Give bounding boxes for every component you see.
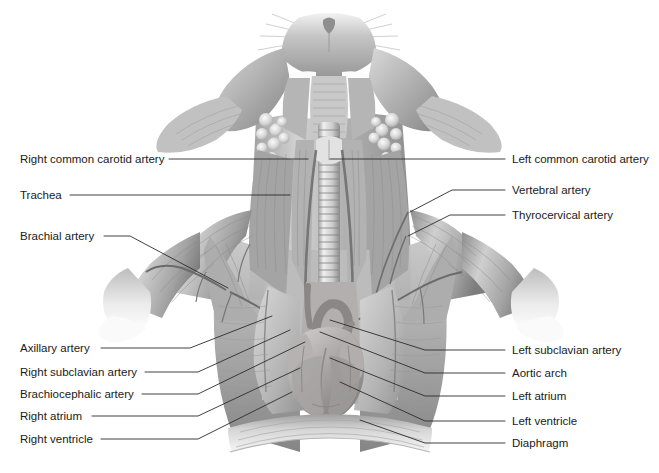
label-left-atrium: Left atrium [512, 390, 566, 402]
label-right-subclavian-artery: Right subclavian artery [20, 366, 137, 378]
label-right-atrium: Right atrium [20, 410, 82, 422]
anatomy-figure-page: Right common carotid arteryTracheaBrachi… [0, 0, 659, 473]
brachiocephalic-vessel [307, 286, 310, 326]
label-left-subclavian-artery: Left subclavian artery [512, 344, 621, 356]
label-left-ventricle: Left ventricle [512, 415, 577, 427]
leader-line-vertebral-artery [410, 190, 505, 212]
label-trachea: Trachea [20, 189, 62, 201]
label-left-common-carotid-artery: Left common carotid artery [512, 153, 649, 165]
label-brachial-artery: Brachial artery [20, 230, 94, 242]
label-diaphragm: Diaphragm [512, 437, 568, 449]
label-right-ventricle: Right ventricle [20, 433, 93, 445]
label-aortic-arch: Aortic arch [512, 367, 567, 379]
label-vertebral-artery: Vertebral artery [512, 184, 591, 196]
label-axillary-artery: Axillary artery [20, 342, 90, 354]
sternomastoid-left [249, 150, 294, 296]
lung-right-lobe [354, 286, 406, 414]
label-right-common-carotid-artery: Right common carotid artery [20, 153, 164, 165]
label-thyrocervical-artery: Thyrocervical artery [512, 209, 613, 221]
mandible-wing-left [156, 96, 242, 153]
label-brachiocephalic-artery: Brachiocephalic artery [20, 388, 134, 400]
mandible-wing-right [416, 96, 502, 153]
anatomy-illustration [0, 0, 659, 473]
